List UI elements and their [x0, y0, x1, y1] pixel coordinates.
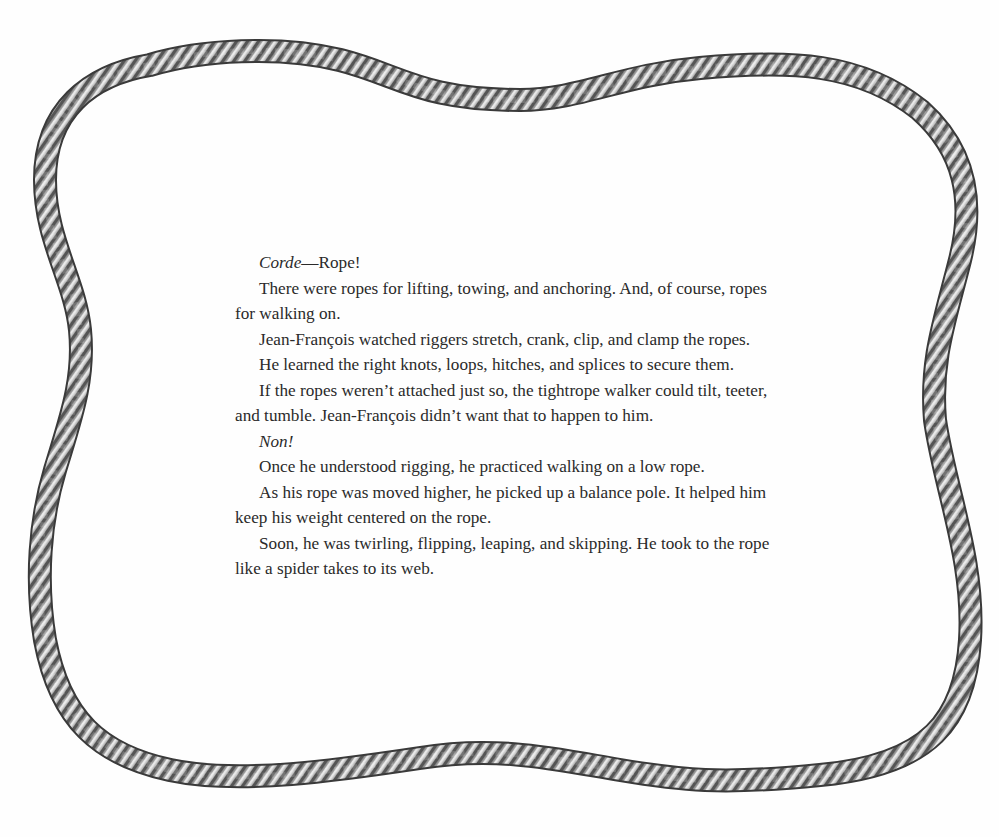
paragraph-riggers: Jean-François watched riggers stretch, c…	[235, 327, 780, 353]
paragraph-balance-pole: As his rope was moved higher, he picked …	[235, 480, 780, 531]
paragraph-text: As his rope was moved higher, he picked …	[235, 483, 766, 528]
paragraph-corde: Corde—Rope!	[235, 250, 780, 276]
paragraph-knots: He learned the right knots, loops, hitch…	[235, 352, 780, 378]
paragraph-text: He learned the right knots, loops, hitch…	[259, 355, 734, 374]
paragraph-non: Non!	[235, 429, 780, 455]
paragraph-text: Once he understood rigging, he practiced…	[259, 457, 705, 476]
paragraph-attached: If the ropes weren’t attached just so, t…	[235, 378, 780, 429]
paragraph-spider: Soon, he was twirling, flipping, leaping…	[235, 531, 780, 582]
book-page: Corde—Rope! There were ropes for lifting…	[0, 0, 999, 837]
italic-word-non: Non!	[259, 432, 293, 451]
italic-word-corde: Corde	[259, 253, 301, 272]
paragraph-text: Jean-François watched riggers stretch, c…	[259, 330, 750, 349]
paragraph-low-rope: Once he understood rigging, he practiced…	[235, 454, 780, 480]
paragraph-text: There were ropes for lifting, towing, an…	[235, 279, 767, 324]
paragraph-ropes: There were ropes for lifting, towing, an…	[235, 276, 780, 327]
paragraph-text: Soon, he was twirling, flipping, leaping…	[235, 534, 769, 579]
paragraph-text: If the ropes weren’t attached just so, t…	[235, 381, 767, 426]
story-text: Corde—Rope! There were ropes for lifting…	[235, 250, 780, 582]
paragraph-text: —Rope!	[301, 253, 360, 272]
